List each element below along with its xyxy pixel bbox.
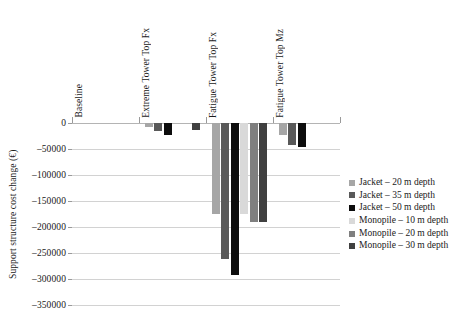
bar [221,123,229,259]
legend-label: Monopile – 30 m depth [359,241,448,251]
category-divider [340,117,341,123]
y-axis-tick [68,305,72,306]
bar [145,123,153,127]
y-axis-tick-label: –150000 [32,196,66,206]
legend-swatch-icon [349,218,355,224]
category-divider [206,117,207,123]
legend-label: Jacket – 50 m depth [359,203,435,213]
legend-item[interactable]: Monopile – 20 m depth [349,229,448,239]
bar [259,123,267,222]
bar [154,123,162,131]
bar [240,123,248,214]
category-divider [72,117,73,123]
legend-label: Jacket – 35 m depth [359,191,435,201]
bar [298,123,306,147]
category-label: Extreme Tower Top Fx [141,28,151,118]
bar [164,123,172,135]
bar [192,123,200,130]
category-label: Baseline [74,84,84,118]
legend-swatch-icon [349,180,355,186]
y-axis-tick-label: 0 [61,118,66,128]
bar [212,123,220,214]
gridline [72,305,340,306]
bar [279,123,287,135]
legend-label: Jacket – 20 m depth [359,178,435,188]
category-divider [273,117,274,123]
category-label: Fatigue Tower Top Fx [208,32,218,118]
bar [250,123,258,222]
legend-item[interactable]: Monopile – 30 m depth [349,241,448,251]
bar [288,123,296,145]
category-group: Fatigue Tower Top Fx [206,123,273,305]
y-axis-tick-label: –350000 [32,300,66,310]
legend-item[interactable]: Monopile – 10 m depth [349,216,448,226]
bar [231,123,239,275]
y-axis-tick-label: –300000 [32,274,66,284]
plot-area: 0–50000–100000–150000–200000–250000–3000… [72,123,340,305]
y-axis-tick-label: –250000 [32,248,66,258]
y-axis-tick-label: –200000 [32,222,66,232]
category-group: Extreme Tower Top Fx [139,123,206,305]
legend-item[interactable]: Jacket – 35 m depth [349,191,448,201]
category-group: Fatigue Tower Top Mz [273,123,340,305]
legend-label: Monopile – 10 m depth [359,216,448,226]
legend-swatch-icon [349,192,355,198]
y-axis-tick-label: –100000 [32,170,66,180]
y-axis-title: Support structure cost change (€) [6,123,20,305]
legend-item[interactable]: Jacket – 20 m depth [349,178,448,188]
legend-swatch-icon [349,231,355,237]
legend-item[interactable]: Jacket – 50 m depth [349,203,448,213]
category-divider [139,117,140,123]
y-axis-tick-label: –50000 [37,144,66,154]
legend-swatch-icon [349,243,355,249]
legend-label: Monopile – 20 m depth [359,229,448,239]
legend-swatch-icon [349,205,355,211]
chart-legend: Jacket – 20 m depthJacket – 35 m depthJa… [349,178,448,251]
bar-chart: Support structure cost change (€) 0–5000… [0,0,470,326]
category-label: Fatigue Tower Top Mz [275,29,285,118]
category-group: Baseline [72,123,139,305]
